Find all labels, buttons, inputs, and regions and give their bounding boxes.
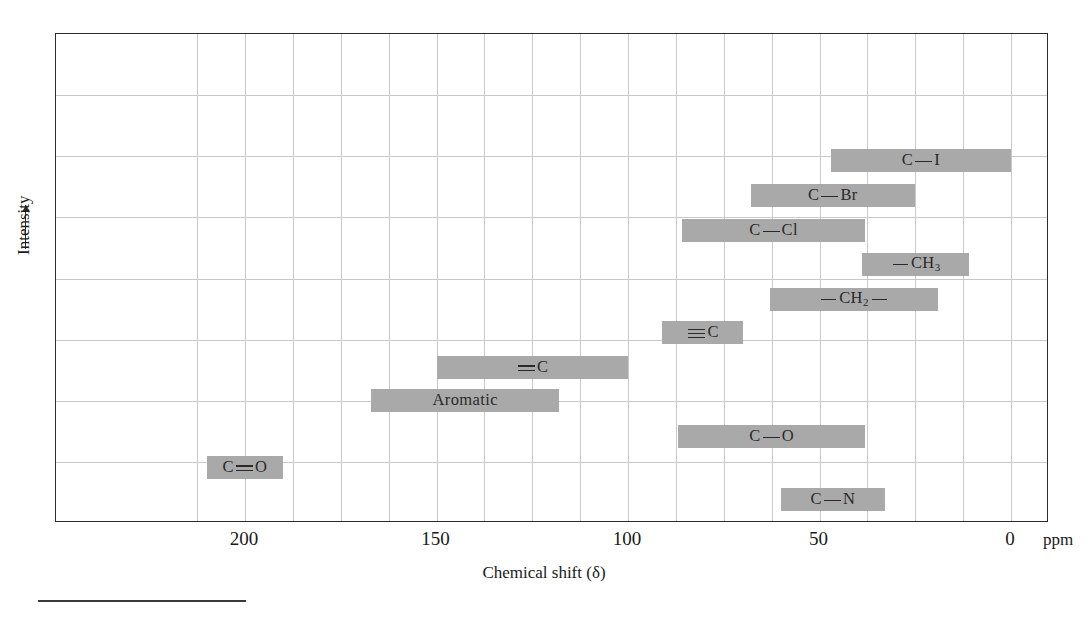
range-bar-carbonyl: CO — [207, 456, 284, 479]
vertical-gridline — [915, 34, 916, 521]
footnote-divider — [38, 600, 246, 602]
x-tick-label-200: 200 — [230, 528, 259, 550]
horizontal-gridline — [56, 462, 1047, 463]
range-bar-c-bromine: CBr — [751, 184, 916, 207]
range-bar-aromatic: Aromatic — [371, 389, 559, 412]
range-bar-label-methylene: CH2 — [818, 290, 890, 309]
range-bar-alkene: C — [437, 356, 629, 379]
vertical-gridline — [532, 34, 533, 521]
range-bar-methyl: CH3 — [862, 253, 969, 276]
range-bar-label-c-bromine: CBr — [808, 187, 858, 205]
range-bar-label-c-iodine: CI — [902, 152, 940, 170]
vertical-gridline — [293, 34, 294, 521]
vertical-gridline — [437, 34, 438, 521]
vertical-gridline — [197, 34, 198, 521]
vertical-gridline — [341, 34, 342, 521]
horizontal-gridline — [56, 340, 1047, 341]
range-bar-label-alkene: C — [516, 359, 548, 377]
range-bar-label-carbonyl: CO — [223, 459, 268, 477]
vertical-gridline — [867, 34, 868, 521]
x-tick-label-50: 50 — [809, 528, 828, 550]
x-axis-title: Chemical shift (δ) — [0, 563, 1088, 583]
range-bar-label-c-oxygen: CO — [749, 428, 794, 446]
vertical-gridline — [389, 34, 390, 521]
horizontal-gridline — [56, 217, 1047, 218]
x-tick-label-100: 100 — [613, 528, 642, 550]
nmr-chemical-shift-chart: Intensity CICBrCClCH3CH2CCAromaticCOCNCO… — [0, 0, 1088, 623]
vertical-gridline — [963, 34, 964, 521]
horizontal-gridline — [56, 95, 1047, 96]
vertical-gridline — [676, 34, 677, 521]
vertical-gridline — [245, 34, 246, 521]
y-axis-title: Intensity — [14, 196, 34, 256]
x-tick-label-150: 150 — [421, 528, 450, 550]
range-bar-label-aromatic: Aromatic — [432, 392, 498, 410]
range-bar-methylene: CH2 — [770, 288, 939, 311]
horizontal-gridline — [56, 279, 1047, 280]
range-bar-label-alkyne: C — [686, 324, 718, 342]
vertical-gridline — [580, 34, 581, 521]
range-bar-c-nitrogen: CN — [781, 488, 884, 511]
range-bar-alkyne: C — [662, 321, 742, 344]
plot-area: CICBrCClCH3CH2CCAromaticCOCNCO — [55, 33, 1048, 522]
range-bar-c-oxygen: CO — [678, 425, 866, 448]
x-tick-label-0: 0 — [1005, 528, 1015, 550]
ppm-unit-label: ppm — [1043, 530, 1073, 550]
range-bar-label-c-nitrogen: CN — [811, 491, 856, 509]
vertical-gridline — [628, 34, 629, 521]
vertical-gridline — [484, 34, 485, 521]
range-bar-label-c-chlorine: CCl — [749, 222, 798, 240]
range-bar-c-chlorine: CCl — [682, 219, 866, 242]
range-bar-c-iodine: CI — [831, 149, 1011, 172]
range-bar-label-methyl: CH3 — [890, 255, 941, 274]
vertical-gridline — [1011, 34, 1012, 521]
